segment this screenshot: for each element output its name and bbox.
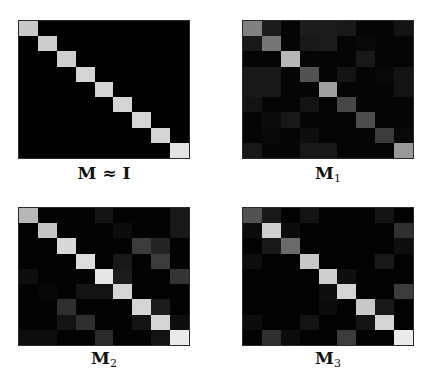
heatmap-cell	[262, 128, 281, 143]
heatmap-cell	[319, 21, 338, 36]
heatmap-cell	[356, 97, 375, 112]
heatmap-cell	[375, 223, 394, 238]
heatmap-cell	[38, 284, 57, 299]
heatmap-cell	[57, 269, 76, 284]
heatmap-cell	[57, 238, 76, 253]
heatmap-cell	[132, 254, 151, 269]
heatmap-cell	[19, 223, 38, 238]
heatmap-cell	[356, 51, 375, 66]
heatmap-cell	[319, 269, 338, 284]
heatmap-cell	[300, 128, 319, 143]
heatmap-cell	[300, 82, 319, 97]
heatmap-cell	[151, 238, 170, 253]
heatmap-cell	[151, 330, 170, 345]
heatmap-cell	[95, 299, 114, 314]
heatmap-cell	[262, 330, 281, 345]
heatmap-cell	[151, 284, 170, 299]
heatmap-cell	[243, 51, 262, 66]
heatmap-cell	[356, 128, 375, 143]
heatmap-cell	[356, 299, 375, 314]
heatmap-cell	[394, 82, 413, 97]
heatmap-cell	[281, 315, 300, 330]
caption-main: M	[315, 163, 334, 183]
heatmap-cell	[170, 269, 189, 284]
heatmap-cell	[262, 82, 281, 97]
heatmap-cell	[262, 223, 281, 238]
heatmap-cell	[394, 67, 413, 82]
heatmap-cell	[300, 208, 319, 223]
heatmap-cell	[337, 315, 356, 330]
heatmap-cell	[281, 223, 300, 238]
heatmap-cell	[337, 67, 356, 82]
heatmap-cell	[38, 330, 57, 345]
heatmap-cell	[375, 82, 394, 97]
caption-subscript: 3	[334, 357, 341, 370]
heatmap-cell	[300, 284, 319, 299]
heatmap-cell	[394, 269, 413, 284]
heatmap-cell	[394, 208, 413, 223]
heatmap-cell	[262, 254, 281, 269]
heatmap-cell	[337, 330, 356, 345]
heatmap-cell	[262, 238, 281, 253]
heatmap-m1	[243, 21, 413, 158]
heatmap-cell	[319, 223, 338, 238]
heatmap-cell	[170, 330, 189, 345]
heatmap-cell	[243, 269, 262, 284]
heatmap-cell	[375, 143, 394, 158]
heatmap-cell	[281, 143, 300, 158]
heatmap-cell	[337, 21, 356, 36]
heatmap-cell	[151, 315, 170, 330]
heatmap-cell	[95, 315, 114, 330]
heatmap-cell	[151, 223, 170, 238]
heatmap-cell	[95, 330, 114, 345]
caption-m2: M2	[19, 348, 189, 374]
heatmap-cell	[356, 315, 375, 330]
heatmap-cell	[243, 112, 262, 127]
panel-m3: M3	[0, 0, 217, 194]
heatmap-cell	[394, 97, 413, 112]
heatmap-cell	[300, 112, 319, 127]
heatmap-cell	[113, 299, 132, 314]
heatmap-cell	[76, 330, 95, 345]
heatmap-cell	[394, 254, 413, 269]
heatmap-cell	[243, 36, 262, 51]
heatmap-cell	[319, 254, 338, 269]
heatmap-cell	[300, 254, 319, 269]
heatmap-cell	[76, 269, 95, 284]
heatmap-cell	[375, 51, 394, 66]
heatmap-cell	[38, 208, 57, 223]
heatmap-cell	[76, 223, 95, 238]
heatmap-cell	[281, 36, 300, 51]
heatmap-cell	[337, 82, 356, 97]
heatmap-cell	[319, 97, 338, 112]
heatmap-cell	[243, 97, 262, 112]
heatmap-cell	[375, 330, 394, 345]
heatmap-cell	[113, 269, 132, 284]
heatmap-cell	[19, 284, 38, 299]
heatmap-cell	[319, 128, 338, 143]
heatmap-cell	[300, 51, 319, 66]
heatmap-cell	[356, 82, 375, 97]
heatmap-cell	[95, 208, 114, 223]
heatmap-cell	[132, 330, 151, 345]
heatmap-cell	[243, 223, 262, 238]
heatmap-cell	[262, 67, 281, 82]
heatmap-cell	[394, 51, 413, 66]
heatmap-cell	[262, 299, 281, 314]
heatmap-cell	[57, 299, 76, 314]
heatmap-cell	[19, 254, 38, 269]
heatmap-cell	[243, 284, 262, 299]
heatmap-cell	[375, 254, 394, 269]
heatmap-cell	[375, 36, 394, 51]
heatmap-cell	[319, 208, 338, 223]
heatmap-cell	[132, 208, 151, 223]
heatmap-cell	[113, 208, 132, 223]
heatmap-cell	[319, 143, 338, 158]
heatmap-cell	[394, 315, 413, 330]
heatmap-cell	[76, 284, 95, 299]
heatmap-cell	[356, 67, 375, 82]
heatmap-cell	[356, 269, 375, 284]
heatmap-cell	[76, 299, 95, 314]
heatmap-cell	[170, 284, 189, 299]
heatmap-cell	[319, 238, 338, 253]
